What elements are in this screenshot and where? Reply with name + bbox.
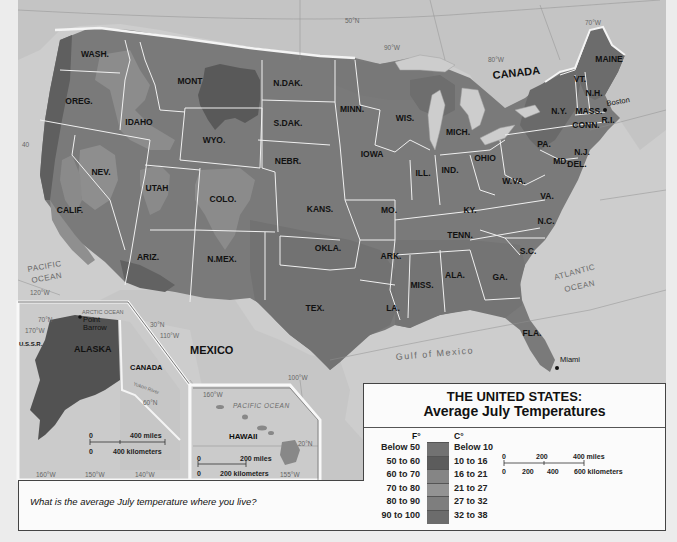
state-label: ARIZ.	[137, 252, 159, 262]
legend-swatch	[427, 469, 449, 484]
coord-155w: 155°W	[280, 471, 300, 478]
state-label: IND.	[442, 165, 459, 175]
question-box: What is the average July temperature whe…	[18, 480, 364, 531]
legend-row: 80 to 9027 to 32	[364, 496, 494, 510]
state-label: IDAHO	[125, 117, 153, 127]
state-label: CONN.	[572, 120, 599, 130]
coord-110w: 110°W	[160, 332, 180, 339]
state-label: VA.	[540, 191, 554, 201]
state-label: KANS.	[307, 204, 333, 214]
svg-text:600 kilometers: 600 kilometers	[574, 468, 623, 475]
legend-fahrenheit: 50 to 60	[350, 456, 420, 466]
coord-40n: 40	[22, 141, 30, 148]
state-label: KY.	[463, 205, 476, 215]
map-figure: WASH.OREG.IDAHOMONTWYO.N.DAK.S.DAK.NEBR.…	[0, 0, 677, 542]
svg-text:0: 0	[89, 448, 93, 455]
legend-fahrenheit: 60 to 70	[350, 469, 420, 479]
state-label: ARK.	[381, 251, 402, 261]
state-label: WYO.	[203, 135, 226, 145]
legend-swatch	[427, 483, 449, 498]
coord-160w-ak: 160°W	[36, 471, 56, 478]
ussr-label: U.S.S.R.	[19, 341, 43, 347]
state-label: MONT	[177, 76, 203, 86]
state-label: UTAH	[146, 183, 169, 193]
mexico-label: MEXICO	[190, 344, 234, 356]
legend-row: 60 to 7016 to 21	[364, 469, 494, 483]
state-label: VT.	[574, 74, 586, 84]
state-label: LA.	[386, 303, 400, 313]
legend-swatch	[427, 442, 449, 457]
coord-50n: 50°N	[345, 17, 360, 24]
state-label: R.I.	[601, 115, 614, 125]
state-label: WIS.	[396, 113, 414, 123]
miami-label: Miami	[560, 355, 580, 364]
state-label: IOWA	[361, 149, 384, 159]
state-label: N.DAK.	[273, 78, 302, 88]
coord-20n: 20°N	[298, 440, 313, 447]
legend-celsius: 27 to 32	[454, 496, 514, 506]
celsius-header: C°	[454, 431, 464, 441]
svg-text:400 miles: 400 miles	[130, 432, 162, 439]
state-label: W.VA.	[502, 176, 525, 186]
state-label: COLO.	[210, 194, 237, 204]
state-label: OKLA.	[315, 243, 341, 253]
coord-30n: 30°N	[150, 321, 165, 328]
legend-title: THE UNITED STATES: Average July Temperat…	[364, 389, 665, 419]
alaska-canada-label: CANADA	[130, 363, 163, 372]
legend-celsius: 32 to 38	[454, 510, 514, 520]
state-label: NEV.	[91, 167, 110, 177]
coord-140w: 140°W	[135, 471, 155, 478]
state-label: OHIO	[474, 153, 496, 163]
arctic-ocean-label: ARCTIC OCEAN	[82, 309, 124, 315]
svg-text:0: 0	[197, 455, 201, 462]
hawaii-label: HAWAII	[229, 432, 257, 441]
question-text: What is the average July temperature whe…	[30, 496, 257, 507]
state-label: MAINE	[595, 54, 623, 64]
state-label: FLA.	[523, 328, 542, 338]
state-label: TEX.	[306, 303, 325, 313]
legend-swatch	[427, 510, 449, 525]
state-label: N.MEX.	[207, 254, 236, 264]
legend-title-line2: Average July Temperatures	[364, 404, 665, 419]
state-label: DEL.	[567, 159, 586, 169]
state-label: MISS.	[410, 280, 433, 290]
fahrenheit-header: F°	[412, 431, 421, 441]
svg-text:0: 0	[197, 470, 201, 477]
main-scale-bar: 0 200 400 miles 0 200 400 600 kilometers	[499, 449, 659, 489]
state-label: N.C.	[538, 216, 555, 226]
state-label: MICH.	[446, 127, 470, 137]
state-label: NEBR.	[275, 156, 301, 166]
state-label: N.J.	[574, 147, 590, 157]
svg-text:400: 400	[547, 468, 559, 475]
coord-170w: 170°W	[25, 327, 45, 334]
coord-80w: 80°W	[488, 56, 505, 63]
state-label: OREG.	[65, 96, 92, 106]
legend-row: 90 to 10032 to 38	[364, 510, 494, 524]
svg-text:400 kilometers: 400 kilometers	[113, 448, 162, 455]
hawaii-pacific-label: PACIFIC OCEAN	[233, 402, 290, 409]
legend-fahrenheit: Below 50	[350, 442, 420, 452]
legend-row: 70 to 8021 to 27	[364, 483, 494, 497]
state-label: WASH.	[81, 49, 109, 59]
svg-text:200: 200	[522, 468, 534, 475]
state-label: N.H.	[586, 88, 603, 98]
hawaii-inset: 160°W PACIFIC OCEAN HAWAII 20°N 155°W 0 …	[190, 385, 320, 480]
point-barrow-label-2: Barrow	[83, 323, 107, 332]
svg-text:0: 0	[502, 453, 506, 460]
state-label: MO.	[381, 205, 397, 215]
coord-90w: 90°W	[384, 44, 401, 51]
coord-100w: 100°W	[288, 374, 308, 381]
coord-70n: 70°N	[38, 316, 53, 323]
legend-divider	[364, 427, 665, 428]
legend-title-line1: THE UNITED STATES:	[364, 389, 665, 404]
state-label: ILL.	[415, 168, 430, 178]
state-label: S.DAK.	[274, 118, 303, 128]
state-label: MASS.	[576, 106, 603, 116]
alaska-label: ALASKA	[74, 344, 112, 354]
legend: THE UNITED STATES: Average July Temperat…	[363, 383, 666, 531]
legend-row: Below 50Below 10	[364, 442, 494, 456]
coord-70w: 70°W	[585, 19, 602, 26]
state-label: N.Y.	[551, 106, 567, 116]
legend-row: 50 to 6010 to 16	[364, 456, 494, 470]
miami-dot	[555, 366, 559, 370]
